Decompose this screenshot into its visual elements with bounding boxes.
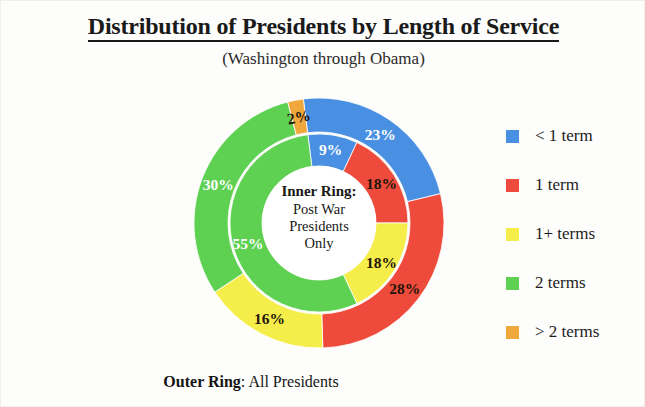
- chart-page: Distribution of Presidents by Length of …: [0, 0, 645, 407]
- legend-swatch-icon: [506, 228, 519, 241]
- pie-slice-label: 18%: [366, 254, 397, 271]
- legend-swatch-icon: [506, 130, 519, 143]
- legend-item[interactable]: 2 terms: [506, 266, 641, 300]
- legend-item-label: < 1 term: [535, 126, 593, 146]
- pie-slice-label: 55%: [232, 235, 263, 252]
- legend-item-label: 2 terms: [535, 273, 586, 293]
- pie-slice-label: 23%: [365, 126, 396, 143]
- pie-slice-label: 18%: [366, 175, 397, 192]
- legend-swatch-icon: [506, 277, 519, 290]
- bottom-caption-rest: : All Presidents: [241, 373, 339, 390]
- pie-slice-label: 9%: [319, 141, 342, 158]
- chart-legend: < 1 term1 term1+ terms2 terms> 2 terms: [506, 119, 641, 364]
- legend-item[interactable]: 1 term: [506, 168, 641, 202]
- legend-item[interactable]: > 2 terms: [506, 315, 641, 349]
- legend-item[interactable]: < 1 term: [506, 119, 641, 153]
- pie-slice-label: 28%: [389, 280, 420, 297]
- page-subtitle: (Washington through Obama): [1, 49, 645, 69]
- legend-item-label: > 2 terms: [535, 322, 599, 342]
- legend-item[interactable]: 1+ terms: [506, 217, 641, 251]
- legend-swatch-icon: [506, 326, 519, 339]
- bottom-caption: Outer Ring: All Presidents: [1, 373, 501, 391]
- bottom-caption-strong: Outer Ring: [163, 373, 240, 390]
- legend-swatch-icon: [506, 179, 519, 192]
- donut-chart: 23%28%16%30%2% 9%18%18%55%: [189, 93, 449, 353]
- legend-item-label: 1 term: [535, 175, 579, 195]
- page-title-text: Distribution of Presidents by Length of …: [88, 13, 559, 42]
- donut-hole: [262, 166, 376, 280]
- page-title: Distribution of Presidents by Length of …: [1, 13, 645, 40]
- pie-slice-label: 16%: [254, 310, 285, 327]
- pie-slice-label: 30%: [203, 176, 234, 193]
- donut-chart-svg: 23%28%16%30%2% 9%18%18%55%: [189, 93, 449, 353]
- legend-item-label: 1+ terms: [535, 224, 595, 244]
